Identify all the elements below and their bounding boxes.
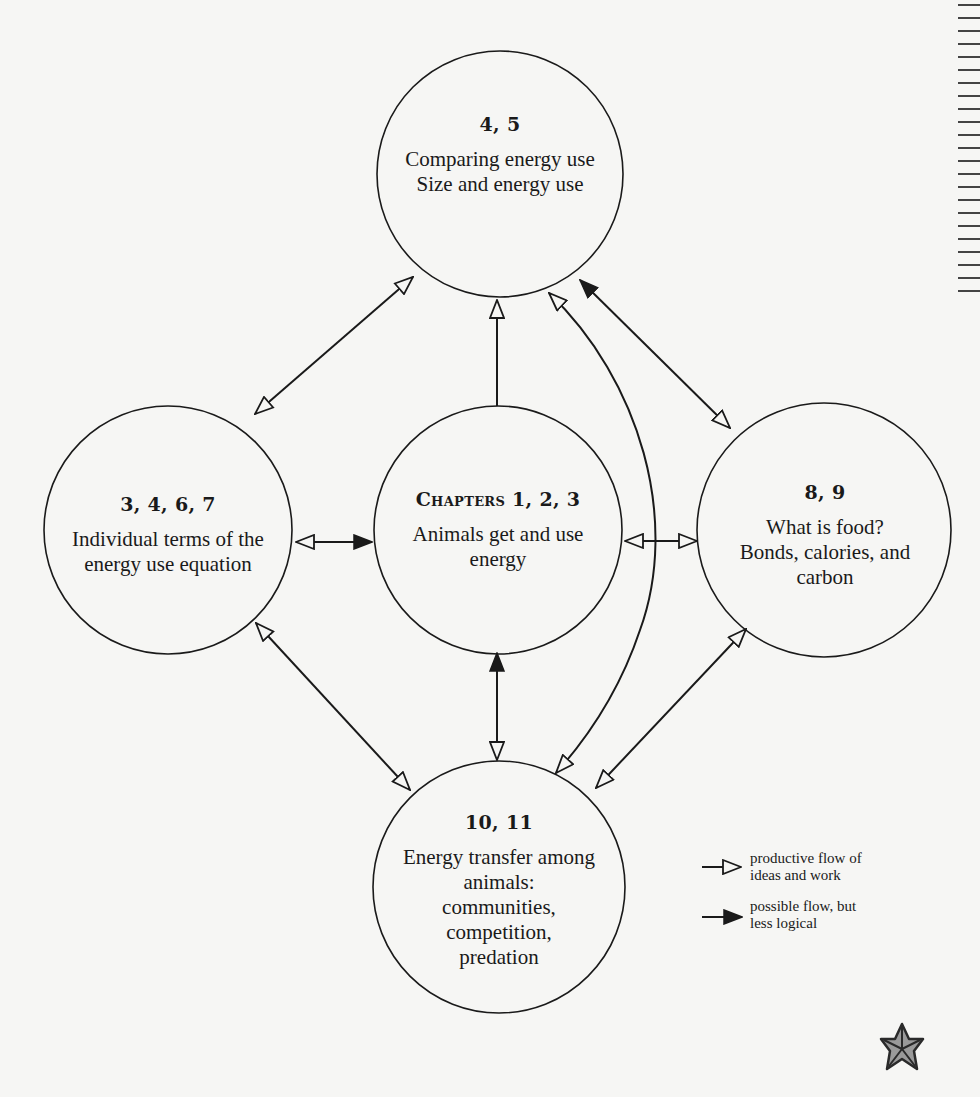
node-left-description: Individual terms of the energy use equat…: [72, 527, 264, 577]
node-right: 8, 9 What is food? Bonds, calories, and …: [710, 465, 940, 605]
edge-top-right: [580, 280, 730, 428]
node-top-chapters: 4, 5: [480, 113, 521, 135]
edge-left-top: [255, 277, 413, 414]
node-bottom-chapters: 10, 11: [465, 811, 533, 833]
node-left: 3, 4, 6, 7 Individual terms of the energ…: [48, 470, 288, 600]
node-left-chapters: 3, 4, 6, 7: [120, 493, 216, 515]
node-top: 4, 5 Comparing energy use Size and energ…: [385, 95, 615, 215]
node-center: Chapters 1, 2, 3 Animals get and use ene…: [380, 465, 616, 595]
edge-left-bottom: [256, 623, 410, 790]
node-bottom-description: Energy transfer among animals: communiti…: [403, 845, 595, 970]
node-bottom: 10, 11 Energy transfer among animals: co…: [380, 790, 618, 990]
legend-filled-label: possible flow, but less logical: [750, 898, 856, 932]
node-top-description: Comparing energy use Size and energy use: [405, 147, 595, 197]
node-center-chapters: Chapters 1, 2, 3: [416, 488, 581, 510]
node-right-description: What is food? Bonds, calories, and carbo…: [740, 515, 910, 590]
starfish-icon: [881, 1024, 923, 1069]
node-right-chapters: 8, 9: [805, 481, 846, 503]
legend-open-label: productive flow of ideas and work: [750, 850, 862, 884]
node-center-description: Animals get and use energy: [413, 522, 584, 572]
edge-right-bottom: [596, 629, 746, 788]
